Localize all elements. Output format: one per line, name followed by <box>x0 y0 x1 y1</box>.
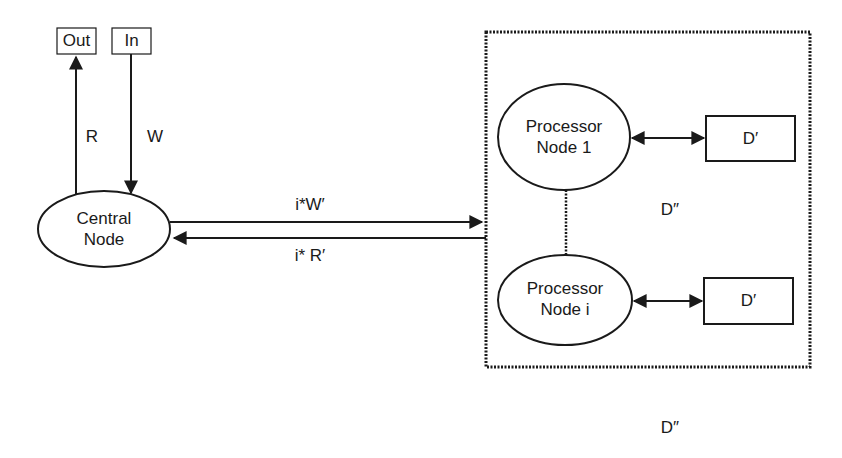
write-label: W <box>143 127 167 147</box>
central-node-line2: Node <box>38 229 170 250</box>
processor-node-i-line1: Processor <box>498 278 632 299</box>
read-label: R <box>82 127 102 147</box>
processor-node-1-line2: Node 1 <box>497 137 631 158</box>
processor-node-i-line2: Node i <box>498 299 632 320</box>
processor-node-1-line1: Processor <box>497 116 631 137</box>
out-label: Out <box>57 28 96 54</box>
central-node-label: Central Node <box>38 208 170 250</box>
processor-node-1-label: Processor Node 1 <box>497 116 631 158</box>
processor-node-i-label: Processor Node i <box>498 278 632 320</box>
shared-storage-label-inside: D″ <box>650 200 690 220</box>
backward-label: i* R′ <box>270 246 350 266</box>
central-node-line1: Central <box>38 208 170 229</box>
storage-label-1: D′ <box>706 116 795 161</box>
in-label: In <box>112 28 151 54</box>
shared-storage-label-below: D″ <box>650 418 690 438</box>
storage-label-i: D′ <box>704 278 793 324</box>
forward-label: i*W′ <box>270 195 350 215</box>
